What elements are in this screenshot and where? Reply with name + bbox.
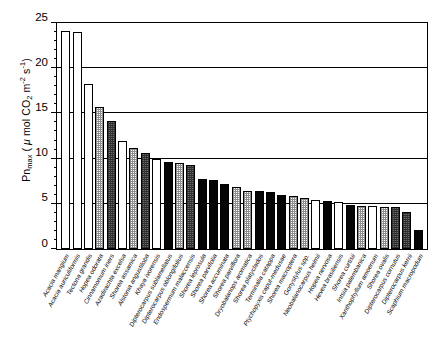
bar-shorea-macroptera: [289, 196, 298, 249]
bar-dipterocarpus-oblongifolius: [175, 163, 184, 249]
bar-acacia-mangium: [61, 31, 70, 249]
bar-slot: [367, 23, 378, 249]
y-axis-label-prefix: Pn: [20, 169, 32, 182]
bar-slot: [322, 23, 333, 249]
bar-hopea-nervosa: [323, 201, 332, 249]
bar-tectona-grandis: [84, 84, 93, 249]
bar-dipterocarpus-kerrii: [402, 212, 411, 249]
y-axis-label-close: ): [20, 58, 32, 62]
bar-slot: [106, 23, 117, 249]
bar-slot: [344, 23, 355, 249]
bar-slot: [162, 23, 173, 249]
bar-slot: [117, 23, 128, 249]
bar-gonystylus-spp: [300, 198, 309, 249]
bar-slot: [379, 23, 390, 249]
bar-series: [57, 23, 427, 249]
bar-slot: [197, 23, 208, 249]
bar-shorea-ovalis: [380, 207, 389, 249]
bar-slot: [242, 23, 253, 249]
y-tick-label-5: 5: [42, 193, 48, 205]
bar-neobalanocarpus-heimii: [311, 200, 320, 249]
bar-scaphium-macropodum: [414, 230, 423, 249]
bar-slot: [265, 23, 276, 249]
bar-dryobalanops-aromatica: [243, 191, 252, 249]
bar-hopea-odorata: [95, 107, 104, 249]
bar-shorea-assamica: [129, 148, 138, 249]
y-axis-label-space-s: s: [20, 69, 32, 77]
bar-slot: [299, 23, 310, 249]
y-tick-label-20: 20: [35, 57, 48, 69]
bar-khaya-ivorensis: [152, 159, 161, 249]
y-tick-label-15: 15: [35, 102, 48, 114]
y-axis-label-mid: mol CO: [20, 100, 32, 139]
bar-shorea-parviflora: [232, 187, 241, 249]
bar-slot: [310, 23, 321, 249]
bar-alstonia-angustiloba: [141, 153, 150, 249]
bar-shorea-platyclados: [255, 191, 264, 249]
y-axis-label-superscript-m2: -2: [18, 77, 27, 84]
bar-slot: [60, 23, 71, 249]
bar-slot: [231, 23, 242, 249]
x-label-slot: Scaphium macropodum: [414, 252, 425, 364]
bar-slot: [83, 23, 94, 249]
bar-slot: [94, 23, 105, 249]
bar-acacia-auriculiformis: [73, 32, 82, 249]
bar-slot: [174, 23, 185, 249]
y-axis-label-mu: μ: [20, 139, 32, 145]
bar-slot: [140, 23, 151, 249]
bar-slot: [390, 23, 401, 249]
bar-terminalia-catappa: [266, 192, 275, 249]
bar-shorea-parvifolia: [209, 180, 218, 249]
bar-slot: [71, 23, 82, 249]
bar-shorea-accuminata: [220, 184, 229, 249]
y-axis-label-subscript-2: 2: [25, 96, 34, 100]
bar-slot: [356, 23, 367, 249]
bar-slot: [151, 23, 162, 249]
y-axis-label-superscript-s1: -1: [18, 62, 27, 69]
plot-area: 0510152025: [56, 22, 428, 250]
bar-slot: [288, 23, 299, 249]
bar-slot: [413, 23, 424, 249]
bar-slot: [276, 23, 287, 249]
bar-slot: [128, 23, 139, 249]
y-axis-label-space-m: m: [20, 84, 32, 96]
bar-intsia-palembanica: [357, 206, 366, 249]
bar-cinnamomum-iners: [107, 121, 116, 249]
bar-slot: [401, 23, 412, 249]
bar-endospermum-malaccensis: [186, 165, 195, 249]
bar-slot: [253, 23, 264, 249]
bar-hevea-brasiliensis: [334, 202, 343, 249]
chart-figure: Pnmax ( μ mol CO2 m-2 s-1) 0510152025 Ac…: [0, 0, 448, 364]
y-tick-label-25: 25: [35, 12, 48, 24]
y-axis-label: Pnmax ( μ mol CO2 m-2 s-1): [18, 10, 34, 230]
bar-shorea-leprosula: [198, 179, 207, 249]
bar-dipterocarpus-sublamellatus: [164, 162, 173, 249]
bar-slot: [333, 23, 344, 249]
x-axis-labels: Acacia mangiumAcacia auriculiformisTecto…: [56, 252, 428, 364]
y-axis-label-open: (: [20, 145, 32, 155]
y-axis-label-subscript-max: max: [25, 155, 34, 169]
bar-slot: [208, 23, 219, 249]
bar-azadirachta-excelsa: [118, 141, 127, 249]
y-tick-label-10: 10: [35, 147, 48, 159]
bar-xanthophyllum-amoenum: [368, 206, 377, 249]
bar-dipterocarpus-cornutus: [391, 207, 400, 249]
y-tick-label-0: 0: [42, 238, 48, 250]
bar-slot: [185, 23, 196, 249]
bar-ptychopyxis-caput-medusae: [277, 195, 286, 249]
bar-slot: [219, 23, 230, 249]
bar-shorea-curtisii: [346, 205, 355, 249]
